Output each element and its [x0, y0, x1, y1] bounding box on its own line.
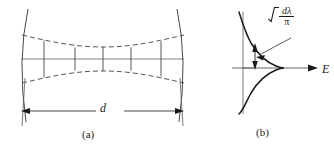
panel-b-caption: (b)	[256, 126, 269, 138]
beam-envelope-lower	[22, 71, 184, 83]
left-mirror-arc	[22, 9, 28, 122]
beam-waist-formula-label: dλ π	[268, 6, 294, 27]
waist-fraction-denominator: π	[279, 17, 294, 27]
optics-figure: dλ π d E (a) (b)	[0, 0, 334, 149]
arrowhead-left	[21, 108, 30, 114]
beam-envelope-upper	[22, 35, 184, 47]
cavity-length-label: d	[97, 101, 109, 116]
radical-expression: dλ π	[268, 6, 294, 27]
waist-leader-line	[259, 38, 291, 55]
radical-sign-icon	[268, 6, 279, 28]
waist-arrowhead-bottom	[252, 61, 258, 70]
field-axis-label: E	[322, 62, 329, 77]
arrowhead-E-axis	[308, 65, 318, 72]
waist-radius-arrow	[243, 43, 258, 70]
panel-a-caption: (a)	[82, 128, 94, 140]
arrowhead-right	[175, 108, 184, 114]
waist-fraction: dλ π	[279, 6, 294, 27]
right-mirror-arc	[177, 9, 183, 122]
